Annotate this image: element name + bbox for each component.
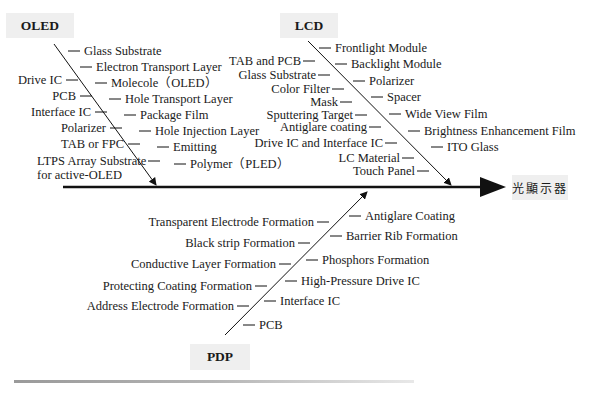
lcd-cause: Polarizer [369,74,414,88]
oled-cause: Electron Transport Layer [96,60,222,74]
pdp-cause: Protecting Coating Formation [103,279,252,293]
fishbone-diagram: OLED LCD PDP 光顯示器 Glass Substrate Electr… [0,0,592,395]
bottom-divider [14,380,414,383]
lcd-cause: Backlight Module [351,57,442,71]
oled-cause: PCB [52,89,76,103]
pdp-cause: Conductive Layer Formation [131,257,276,271]
lcd-cause: Frontlight Module [335,41,427,55]
category-label-lcd: LCD [295,18,324,34]
category-label-oled: OLED [21,18,59,34]
lcd-cause: Wide View Film [405,107,488,121]
effect-box: 光顯示器 [512,175,568,200]
pdp-cause: Phosphors Formation [322,253,429,267]
lcd-cause: Drive IC and Interface IC [255,136,383,150]
oled-cause: Drive IC [18,73,62,87]
lcd-cause: ITO Glass [447,140,499,154]
oled-cause: Polymer（PLED） [190,157,290,171]
pdp-cause: Antiglare Coating [365,209,455,223]
oled-cause: Molecole（OLED） [111,76,218,90]
lcd-cause: Mask [310,95,338,109]
oled-cause: Hole Injection Layer [155,124,259,138]
pdp-cause: High-Pressure Drive IC [301,274,420,288]
effect-label: 光顯示器 [512,179,568,196]
spine-arrowhead-icon [480,177,506,197]
oled-cause: Package Film [140,108,208,122]
pdp-cause: Black strip Formation [185,236,295,250]
lcd-cause: LC Material [339,151,400,165]
oled-cause: Interface IC [31,105,91,119]
pdp-cause: Address Electrode Formation [87,299,234,313]
lcd-cause: Antiglare coating [280,120,367,134]
lcd-cause: Spacer [387,90,421,104]
lcd-cause: Brightness Enhancement Film [424,124,575,138]
lcd-cause: Glass Substrate [239,68,316,82]
category-box-lcd: LCD [280,13,338,38]
pdp-cause: Barrier Rib Formation [346,229,458,243]
oled-cause: Polarizer [61,121,106,135]
pdp-cause: Interface IC [280,294,340,308]
oled-cause: LTPS Array Substrate [37,154,146,168]
oled-cause: TAB or FPC [61,137,124,151]
oled-cause: Emitting [173,140,217,154]
pdp-cause: PCB [259,318,283,332]
category-label-pdp: PDP [207,349,233,365]
oled-cause: Hole Transport Layer [125,92,233,106]
lcd-cause: Touch Panel [353,164,415,178]
category-box-pdp: PDP [190,344,250,370]
category-box-oled: OLED [6,13,74,38]
lcd-cause: TAB and PCB [229,54,301,68]
pdp-cause: Transparent Electrode Formation [149,215,314,229]
oled-cause-continued: for active-OLED [37,168,122,182]
lcd-cause: Color Filter [271,82,330,96]
oled-cause: Glass Substrate [84,44,161,58]
